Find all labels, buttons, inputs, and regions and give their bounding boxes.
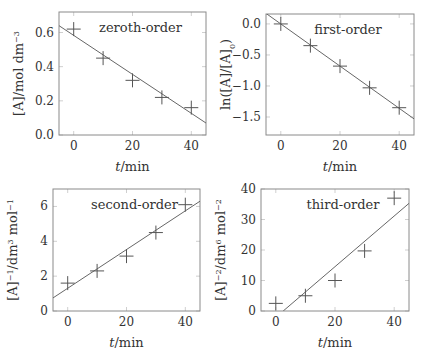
data-point-marker — [392, 101, 406, 115]
data-point-marker — [61, 276, 75, 290]
y-tick-label: 10 — [241, 274, 256, 288]
x-tick-label: 20 — [119, 315, 134, 329]
plot-third-order: third-order02040010203040t/min[A]−2/dm6 … — [213, 182, 409, 350]
data-point-marker — [67, 22, 81, 36]
order-annotation: third-order — [307, 197, 381, 212]
plot-first-order: first-order020400.0−0.5−1.0−1.5t/minln([… — [218, 13, 414, 174]
y-tick-label: 0.2 — [35, 94, 54, 108]
x-tick-label: 0 — [272, 315, 280, 329]
x-axis-label: t/min — [323, 159, 358, 174]
y-axis-label: ln([A]/[A]0) — [218, 39, 237, 110]
y-tick-label: 40 — [241, 182, 256, 196]
fit-line — [283, 203, 409, 311]
y-tick-label: 0.0 — [242, 17, 261, 31]
x-axis-label: t/min — [115, 159, 150, 174]
data-point-marker — [184, 101, 198, 115]
y-tick-label: 30 — [241, 213, 256, 227]
plot-zeroth-order: zeroth-order020400.00.20.40.6t/min[A]/mo… — [11, 12, 206, 174]
y-tick-label: 0.0 — [35, 128, 54, 142]
y-tick-label: 6 — [40, 199, 48, 213]
x-tick-label: 20 — [327, 315, 342, 329]
x-tick-label: 40 — [184, 139, 199, 153]
x-tick-label: 40 — [178, 315, 193, 329]
x-tick-label: 0 — [277, 139, 285, 153]
y-axis-label: [A]/mol dm−3 — [11, 31, 26, 116]
data-point-marker — [120, 249, 134, 263]
y-tick-label: −1.0 — [232, 79, 261, 93]
data-point-marker — [155, 90, 169, 104]
y-tick-label: 0 — [248, 304, 256, 318]
order-annotation: first-order — [314, 22, 382, 37]
y-tick-label: 0.4 — [35, 60, 54, 74]
y-tick-label: 2 — [40, 269, 48, 283]
y-axis-label: [A]−1/dm3 mol−1 — [5, 199, 20, 301]
data-point-marker — [96, 51, 110, 65]
y-tick-label: −0.5 — [232, 48, 261, 62]
data-point-marker — [149, 226, 163, 240]
data-point-marker — [126, 73, 140, 87]
x-axis-label: t/min — [318, 335, 353, 350]
x-tick-label: 20 — [332, 139, 347, 153]
order-annotation: second-order — [91, 197, 179, 212]
data-point-marker — [387, 191, 401, 205]
data-point-marker — [298, 289, 312, 303]
y-tick-label: −1.5 — [232, 110, 261, 124]
x-tick-label: 40 — [392, 139, 407, 153]
x-tick-label: 40 — [387, 315, 402, 329]
data-point-marker — [269, 296, 283, 310]
data-point-marker — [178, 198, 192, 212]
y-tick-label: 4 — [40, 234, 48, 248]
data-point-marker — [333, 59, 347, 73]
data-point-marker — [363, 81, 377, 95]
x-tick-label: 0 — [70, 139, 78, 153]
y-axis-label: [A]−2/dm6 mol−2 — [213, 199, 228, 301]
x-axis-label: t/min — [109, 335, 144, 350]
data-point-marker — [274, 17, 288, 31]
y-tick-label: 0.6 — [35, 26, 54, 40]
data-point-marker — [303, 39, 317, 53]
y-tick-label: 0 — [40, 304, 48, 318]
plot-second-order: second-order020400246t/min[A]−1/dm3 mol−… — [5, 189, 200, 350]
y-tick-label: 20 — [241, 243, 256, 257]
data-point-marker — [328, 274, 342, 288]
kinetics-figure: zeroth-order020400.00.20.40.6t/min[A]/mo… — [0, 0, 426, 357]
order-annotation: zeroth-order — [99, 20, 183, 35]
x-tick-label: 0 — [64, 315, 72, 329]
x-tick-label: 20 — [125, 139, 140, 153]
